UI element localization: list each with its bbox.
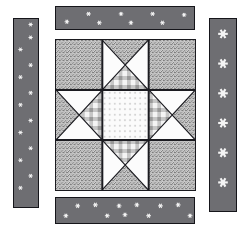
block-unit-bottom-left: [56, 140, 102, 190]
block-unit-top-center: [102, 40, 148, 90]
block-unit-bottom-center: [102, 140, 148, 190]
block-unit-top-left: [56, 40, 102, 90]
bottom-strip-fabric: [56, 198, 194, 224]
block-unit-top-right: [149, 40, 195, 90]
right-strip-fabric: [210, 19, 236, 199]
bottom-sashing-strip: [55, 197, 195, 224]
center-star-block: [55, 39, 196, 191]
quilt-block-diagram: [0, 0, 250, 232]
block-unit-grid: [56, 40, 195, 190]
top-sashing-strip: [55, 6, 195, 30]
block-unit-middle-left: [56, 90, 102, 140]
block-unit-middle-right: [149, 90, 195, 140]
left-strip-fabric: [14, 19, 38, 194]
right-sashing-strip: [209, 18, 237, 212]
top-strip-fabric: [56, 7, 194, 30]
block-unit-center: [102, 90, 148, 140]
left-sashing-strip: [13, 18, 39, 208]
block-unit-bottom-right: [149, 140, 195, 190]
